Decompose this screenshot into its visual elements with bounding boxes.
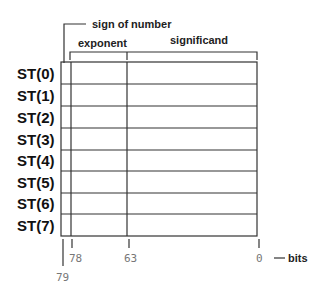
bit-axis: 79 78 63 0 bits bbox=[56, 239, 308, 284]
fpu-register-stack-diagram: sign of number exponent significand ST(0… bbox=[0, 0, 315, 294]
bit-63-label: 63 bbox=[124, 252, 137, 265]
register-label-st0: ST(0) bbox=[17, 65, 55, 82]
sign-label: sign of number bbox=[92, 18, 172, 30]
field-bracket: exponent significand bbox=[70, 34, 257, 60]
register-label-st6: ST(6) bbox=[17, 195, 55, 212]
exponent-label: exponent bbox=[78, 37, 127, 49]
bit-78-label: 78 bbox=[69, 252, 82, 265]
register-table bbox=[61, 62, 257, 236]
bit-79-label: 79 bbox=[56, 271, 69, 284]
bit-0-label: 0 bbox=[256, 252, 263, 265]
register-label-st7: ST(7) bbox=[17, 217, 55, 234]
register-label-st5: ST(5) bbox=[17, 174, 55, 191]
register-label-st4: ST(4) bbox=[17, 152, 55, 169]
register-label-st1: ST(1) bbox=[17, 87, 55, 104]
register-labels: ST(0) ST(1) ST(2) ST(3) ST(4) ST(5) ST(6… bbox=[17, 65, 55, 234]
register-label-st3: ST(3) bbox=[17, 131, 55, 148]
significand-label: significand bbox=[170, 34, 228, 46]
register-label-st2: ST(2) bbox=[17, 109, 55, 126]
bits-unit-label: bits bbox=[288, 252, 308, 264]
